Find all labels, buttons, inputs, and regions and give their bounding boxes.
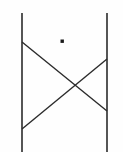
line-diagram-svg xyxy=(0,0,123,152)
square-dot-marker xyxy=(61,40,64,43)
figure-canvas: X-brace line diagram Two vertical lines … xyxy=(0,0,123,152)
diagonal-top-left-to-bottom-right xyxy=(22,42,107,111)
diagonal-bottom-left-to-top-right xyxy=(22,59,107,129)
